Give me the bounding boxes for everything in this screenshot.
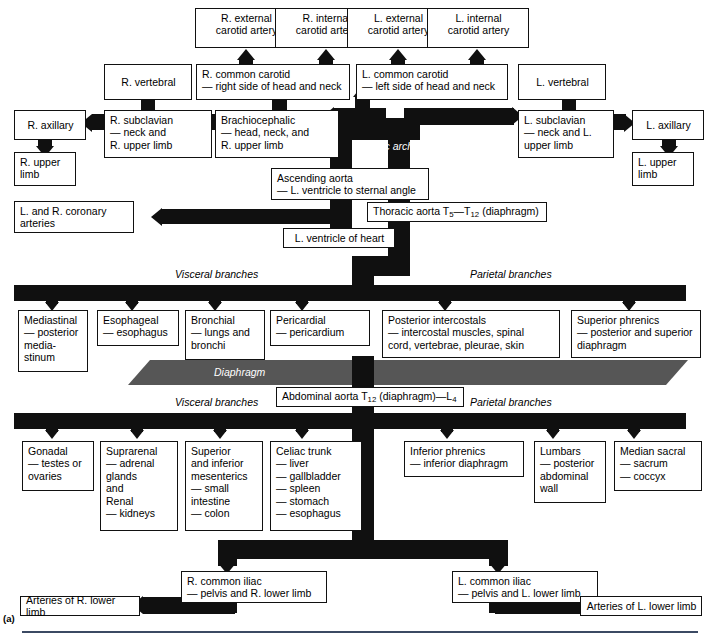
arrowhead-inferior-phrenics bbox=[440, 430, 454, 439]
label-parietal-branches-abdominal: Parietal branches bbox=[470, 396, 552, 408]
box-l-common-iliac: L. common iliac — pelvis and L. lower li… bbox=[452, 571, 598, 603]
vessel-iliac-bifurcation-bar bbox=[218, 540, 508, 559]
arrowhead-gonadal bbox=[45, 430, 59, 439]
box-brachiocephalic: Brachiocephalic — head, neck, and R. upp… bbox=[215, 110, 339, 158]
box-ascending-aorta: Ascending aorta — L. ventricle to sterna… bbox=[271, 168, 429, 200]
diaphragm-band bbox=[128, 360, 688, 385]
box-lumbars: Lumbars — posterior abdominal wall bbox=[534, 441, 606, 503]
label-visceral-branches-abdominal: Visceral branches bbox=[175, 396, 258, 408]
arrowhead-coronary bbox=[151, 208, 162, 226]
arrowhead-l-external-carotid bbox=[389, 49, 407, 60]
arrowhead-suprarenal bbox=[130, 430, 144, 439]
box-l-axillary: L. axillary bbox=[632, 110, 704, 140]
box-celiac-trunk: Celiac trunk — liver — gallbladder — spl… bbox=[270, 441, 362, 531]
arrowhead-r-external-carotid bbox=[237, 49, 255, 60]
box-l-upper-limb: L. upper limb bbox=[632, 152, 694, 186]
arrowhead-mesenterics bbox=[213, 430, 227, 439]
vessel-l-subclavian-branch bbox=[404, 108, 514, 125]
box-r-axillary: R. axillary bbox=[14, 110, 86, 140]
vessel-thoracic-distribution-bar bbox=[14, 285, 686, 301]
panel-label-a: (a) bbox=[3, 613, 15, 624]
diaphragm-label: Diaphragm bbox=[214, 366, 265, 378]
box-l-vertebral: L. vertebral bbox=[518, 64, 606, 100]
box-l-subclavian: L. subclavian — neck and L. upper limb bbox=[518, 110, 614, 158]
vessel-abdominal-distribution-bar bbox=[14, 413, 686, 429]
box-abdominal-aorta: Abdominal aorta T12 (diaphragm)—L4 bbox=[276, 387, 464, 407]
box-gonadal: Gonadal — testes or ovaries bbox=[22, 441, 94, 491]
arrowhead-l-internal-carotid bbox=[468, 49, 486, 60]
label-parietal-branches-thoracic: Parietal branches bbox=[470, 268, 552, 280]
label-visceral-branches-thoracic: Visceral branches bbox=[175, 268, 258, 280]
bottom-divider bbox=[22, 631, 698, 633]
box-inferior-phrenics: Inferior phrenics — inferior diaphragm bbox=[404, 441, 524, 477]
arrowhead-celiac bbox=[295, 430, 309, 439]
arrowhead-r-internal-carotid bbox=[317, 49, 335, 60]
box-r-common-carotid: R. common carotid — right side of head a… bbox=[196, 64, 350, 100]
box-mediastinal: Mediastinal — posterior media- stinum bbox=[18, 310, 88, 372]
box-r-common-iliac: R. common iliac — pelvis and R. lower li… bbox=[181, 571, 327, 603]
arrowhead-median-sacral bbox=[627, 430, 641, 439]
abdominal-aorta-text: Abdominal aorta T12 (diaphragm)—L4 bbox=[282, 390, 457, 404]
box-coronary-arteries: L. and R. coronary arteries bbox=[14, 201, 134, 233]
box-esophageal: Esophageal — esophagus bbox=[97, 310, 179, 346]
box-l-ventricle-of-heart: L. ventricle of heart bbox=[283, 228, 395, 248]
box-r-subclavian: R. subclavian — neck and R. upper limb bbox=[104, 110, 212, 158]
vessel-arch-upleft bbox=[348, 110, 372, 128]
arrowhead-lumbars bbox=[546, 430, 560, 439]
vessel-aorta-through-diaphragm bbox=[352, 356, 374, 388]
box-suprarenal-renal: Suprarenal — adrenal glands and Renal — … bbox=[100, 441, 178, 531]
box-bronchial: Bronchial — lungs and bronchi bbox=[185, 310, 265, 360]
artery-flowchart-figure: Diaphragm Visceral branches Parietal bra… bbox=[0, 0, 719, 635]
box-r-upper-limb: R. upper limb bbox=[14, 152, 76, 186]
box-arteries-r-lower-limb: Arteries of R. lower limb bbox=[20, 596, 140, 616]
thoracic-aorta-text: Thoracic aorta T5—T12 (diaphragm) bbox=[373, 205, 539, 219]
box-mesenterics: Superior and inferior mesenterics — smal… bbox=[185, 441, 263, 531]
box-arteries-l-lower-limb: Arteries of L. lower limb bbox=[580, 596, 702, 616]
box-l-common-carotid: L. common carotid — left side of head an… bbox=[356, 64, 508, 100]
box-median-sacral: Median sacral — sacrum — coccyx bbox=[614, 441, 702, 491]
box-r-vertebral: R. vertebral bbox=[104, 64, 192, 100]
box-pericardial: Pericardial — pericardium bbox=[270, 310, 370, 346]
box-superior-phrenics: Superior phrenics — posterior and superi… bbox=[571, 310, 701, 358]
label-aortic-arch: Aortic arch bbox=[363, 140, 413, 152]
box-posterior-intercostals: Posterior intercostals — intercostal mus… bbox=[382, 310, 560, 358]
box-l-internal-carotid-artery: L. internal carotid artery bbox=[427, 8, 529, 48]
box-thoracic-aorta: Thoracic aorta T5—T12 (diaphragm) bbox=[367, 202, 547, 222]
vessel-coronary-branch bbox=[162, 209, 337, 224]
